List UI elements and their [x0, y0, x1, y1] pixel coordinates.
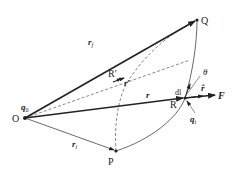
label-dl: dl [175, 88, 182, 97]
label-r-prime: R′ [108, 68, 117, 79]
vector-r [25, 98, 183, 118]
label-force: F [217, 90, 225, 101]
label-r-final: rf [88, 37, 95, 48]
point-r-prime [117, 79, 120, 82]
point-o [23, 116, 27, 120]
label-qt: qt [190, 114, 197, 125]
point-r [183, 96, 186, 99]
label-r: R [170, 99, 177, 110]
label-theta: θ [203, 67, 208, 77]
point-q [195, 18, 198, 21]
vector-r-initial [25, 118, 114, 150]
work-path-diagram: O Q P R R′ q0 qt rf ri r r′ r̂ F dl θ [0, 0, 234, 171]
label-r-prime-vec: r′ [124, 78, 131, 88]
label-q0: q0 [21, 102, 29, 113]
label-r-hat: r̂ [201, 83, 206, 93]
point-p [114, 149, 117, 152]
label-r-initial: ri [72, 139, 78, 150]
label-p: P [108, 156, 114, 167]
label-o: O [12, 113, 19, 124]
label-q: Q [201, 15, 209, 26]
label-r: r [146, 90, 150, 100]
qt-leader [187, 101, 195, 113]
